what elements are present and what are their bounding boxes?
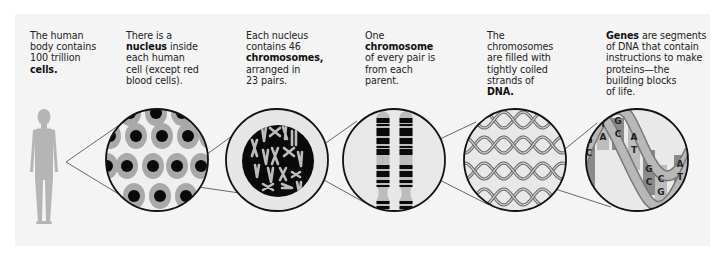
coiled-dna-icon (455, 109, 575, 211)
cells-with-nuclei-icon (96, 100, 221, 211)
dna-double-helix-icon: GCTAGCATGCCGAT (578, 108, 695, 211)
base-letter: G (614, 116, 621, 126)
base-letter: A (600, 132, 607, 142)
base-letter: G (645, 164, 652, 174)
base-letter: A (677, 159, 684, 169)
base-letter: C (615, 129, 622, 139)
nucleus-chromosomes-icon (226, 109, 328, 211)
human-silhouette-icon (30, 109, 58, 224)
base-letter: T (631, 145, 638, 155)
base-letter: A (631, 132, 638, 142)
base-letter: C (658, 174, 665, 184)
diagram-artwork: GCTAGCATGCCGAT (0, 0, 722, 259)
base-letter: G (657, 187, 664, 197)
base-letter: C (646, 177, 653, 187)
